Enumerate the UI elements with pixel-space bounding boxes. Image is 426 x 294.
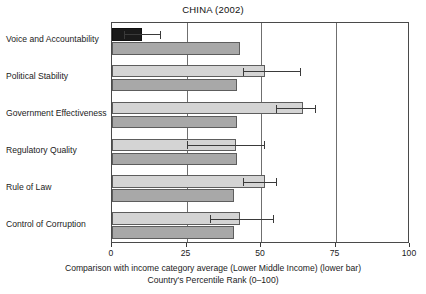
chart-title: CHINA (2002): [0, 4, 426, 15]
x-axis-caption-line2: Country's Percentile Rank (0–100): [0, 275, 426, 285]
error-bar-cap-high-2: [315, 105, 316, 113]
bar-group: [112, 207, 408, 244]
error-bar-cap-low-0: [124, 31, 125, 39]
bar-group: [112, 170, 408, 207]
bar-group: [112, 23, 408, 60]
bar-group: [112, 97, 408, 134]
x-tick-0: [111, 243, 112, 247]
y-axis-label-3: Regulatory Quality: [6, 145, 114, 155]
bar-average-3: [112, 153, 237, 166]
x-tick-label-50: 50: [240, 248, 280, 258]
error-bar-cap-low-4: [243, 178, 244, 186]
x-tick-label-25: 25: [166, 248, 206, 258]
x-tick-75: [335, 243, 336, 247]
x-tick-label-75: 75: [315, 248, 355, 258]
bar-group: [112, 60, 408, 97]
bar-group: [112, 134, 408, 171]
error-bar-cap-high-1: [300, 68, 301, 76]
y-axis-label-2: Government Effectiveness: [6, 108, 114, 118]
bar-average-0: [112, 42, 240, 55]
error-bar-cap-high-4: [276, 178, 277, 186]
x-tick-100: [409, 243, 410, 247]
x-tick-label-0: 0: [91, 248, 131, 258]
error-bar-line-5: [210, 219, 273, 220]
y-axis-label-5: Control of Corruption: [6, 219, 114, 229]
bar-average-4: [112, 189, 234, 202]
y-axis-label-4: Rule of Law: [6, 182, 114, 192]
error-bar-cap-high-5: [273, 215, 274, 223]
error-bar-cap-low-5: [210, 215, 211, 223]
error-bar-cap-high-0: [160, 31, 161, 39]
bar-average-1: [112, 79, 237, 92]
error-bar-line-1: [243, 71, 300, 72]
error-bar-cap-low-1: [243, 68, 244, 76]
y-axis-label-1: Political Stability: [6, 71, 114, 81]
y-axis-label-0: Voice and Accountability: [6, 34, 114, 44]
error-bar-line-4: [243, 182, 276, 183]
error-bar-line-2: [276, 108, 315, 109]
error-bar-cap-low-3: [187, 141, 188, 149]
x-tick-25: [186, 243, 187, 247]
bar-average-2: [112, 116, 237, 129]
bar-average-5: [112, 226, 234, 239]
chart-container: CHINA (2002) Voice and AccountabilityPol…: [0, 0, 426, 294]
error-bar-line-3: [187, 145, 264, 146]
x-tick-50: [260, 243, 261, 247]
plot-area: [111, 22, 409, 243]
error-bar-cap-high-3: [264, 141, 265, 149]
bar-country-2: [112, 102, 303, 115]
error-bar-cap-low-2: [276, 105, 277, 113]
x-axis-caption-line1: Comparison with income category average …: [0, 263, 426, 273]
x-tick-label-100: 100: [389, 248, 426, 258]
error-bar-line-0: [124, 34, 160, 35]
